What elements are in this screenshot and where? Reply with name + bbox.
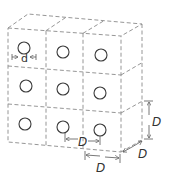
hole-spacing-dimension: D <box>65 133 100 149</box>
hole <box>94 124 106 136</box>
cube-grid-diagram: d D D D D <box>0 0 169 182</box>
cell-width-label: D <box>96 161 105 175</box>
hole-diameter-label: d <box>21 52 28 65</box>
cell-height-dimension: D <box>144 101 161 139</box>
cell-height-label: D <box>152 115 161 129</box>
right-face <box>121 24 142 152</box>
cell-width-dimension: D <box>85 151 120 175</box>
hole <box>94 87 106 99</box>
hole <box>20 80 32 92</box>
hole <box>57 121 69 133</box>
hole <box>57 46 69 58</box>
hole <box>95 49 107 61</box>
cell-depth-label: D <box>138 147 147 161</box>
holes <box>18 42 107 136</box>
hole <box>19 118 31 130</box>
hole-diameter-dimension: d <box>12 52 36 65</box>
hole <box>57 83 69 95</box>
hole-spacing-label: D <box>78 135 87 149</box>
